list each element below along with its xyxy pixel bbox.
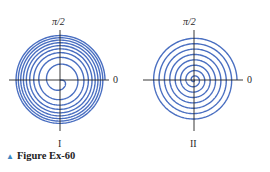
- caption-text: Figure Ex-60: [17, 150, 75, 161]
- panel-i: π/2 0 I: [0, 0, 135, 150]
- triangle-marker-icon: ▲: [6, 152, 14, 161]
- spiral-curve: [154, 38, 237, 119]
- top-label-i: π/2: [52, 17, 65, 27]
- top-label-ii: π/2: [183, 17, 196, 27]
- right-label-i: 0: [113, 75, 118, 85]
- panel-label-ii: II: [190, 139, 197, 149]
- spiral-curve: [16, 36, 105, 124]
- panel-ii: π/2 0 II: [135, 0, 270, 150]
- panel-label-i: I: [58, 139, 61, 149]
- figure-caption: ▲Figure Ex-60: [6, 150, 75, 161]
- right-label-ii: 0: [247, 75, 252, 85]
